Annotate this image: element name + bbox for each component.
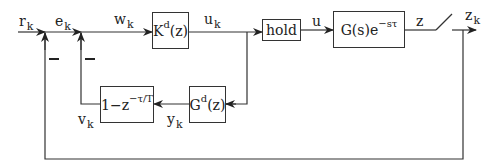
signal-label-u-k: uk xyxy=(204,12,221,26)
signal-label-w-k: wk xyxy=(114,12,134,26)
signal-label-u: u xyxy=(312,14,321,28)
signal-label-y-k: yk xyxy=(167,112,183,126)
sampler-switch xyxy=(436,14,452,30)
plant-block: G(s)e−sτ xyxy=(333,11,405,48)
minus-sign-sum2 xyxy=(85,58,95,60)
signal-label-r-k: rk xyxy=(19,14,33,28)
hold-block: hold xyxy=(262,19,301,41)
delay-compensation-block: 1−z−τ/T xyxy=(100,86,154,123)
controller-block: Kd(z) xyxy=(152,12,189,49)
signal-label-e-k: ek xyxy=(55,14,71,28)
wire-to-predictor xyxy=(226,32,247,104)
block-diagram: rk ek wk uk u z zk vk yk Kd(z) hold G(s)… xyxy=(0,0,493,166)
predictor-block: Gd(z) xyxy=(189,86,226,123)
signal-label-z-k: zk xyxy=(465,8,480,22)
wire-inner-feedback xyxy=(81,33,100,104)
signal-label-z: z xyxy=(416,14,423,28)
minus-sign-sum1 xyxy=(49,58,59,60)
signal-label-v-k: vk xyxy=(78,112,94,126)
